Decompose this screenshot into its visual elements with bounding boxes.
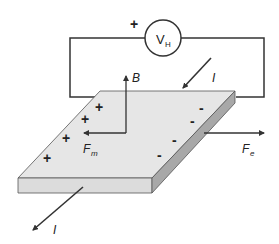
- positive-charge: +: [62, 130, 70, 146]
- positive-charge: +: [43, 150, 51, 166]
- voltmeter-label-subscript: H: [165, 40, 171, 49]
- hall-effect-diagram: V H + + + + + - - - - B F m F e: [0, 0, 279, 244]
- voltmeter: V H +: [130, 16, 181, 56]
- svg-text:F: F: [242, 142, 250, 156]
- magnetic-field-label: B: [132, 71, 140, 85]
- voltmeter-label: V: [156, 32, 165, 47]
- svg-text:m: m: [91, 149, 98, 158]
- current-out-label: I: [53, 223, 57, 237]
- negative-charge: -: [199, 100, 204, 116]
- svg-text:F: F: [83, 142, 91, 156]
- current-in-label: I: [212, 71, 216, 85]
- slab-front-face: [18, 178, 152, 193]
- voltmeter-polarity: +: [130, 16, 138, 32]
- electric-force-label: F e: [242, 142, 255, 158]
- svg-text:e: e: [250, 149, 255, 158]
- positive-charge: +: [81, 111, 89, 127]
- current-in-arrow: [183, 58, 211, 88]
- negative-charge: -: [157, 147, 162, 163]
- negative-charge: -: [190, 113, 195, 129]
- current-out-arrow: [33, 187, 83, 230]
- positive-charge: +: [95, 99, 103, 115]
- negative-charge: -: [172, 132, 177, 148]
